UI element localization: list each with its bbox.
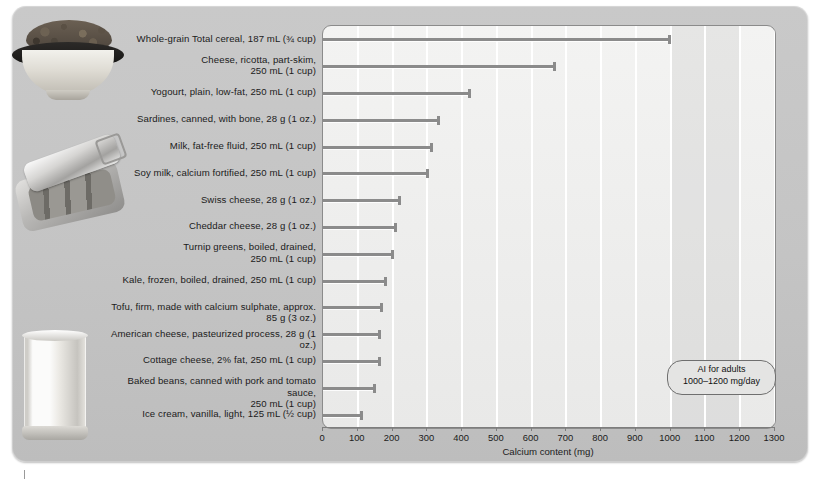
category-label: American cheese, pasteurized process, 28… <box>110 328 316 351</box>
x-axis-tick <box>426 427 427 431</box>
category-label-line: 250 mL (1 cup) <box>110 253 316 264</box>
category-label-line: Kale, frozen, boiled, drained, 250 mL (1… <box>110 274 316 285</box>
bar-row <box>323 214 775 241</box>
category-label-line: Swiss cheese, 28 g (1 oz.) <box>110 194 316 205</box>
category-label-line: Sardines, canned, with bone, 28 g (1 oz.… <box>110 113 316 124</box>
bar-row <box>323 53 775 80</box>
bar <box>323 306 383 309</box>
bar <box>323 226 397 229</box>
x-axis-tick <box>565 427 566 431</box>
category-label: Soy milk, calcium fortified, 250 mL (1 c… <box>110 167 316 178</box>
x-axis-tick <box>635 427 636 431</box>
milk-glass-body <box>24 334 86 434</box>
bar-row <box>323 240 775 267</box>
bar <box>323 253 394 256</box>
category-label: Milk, fat-free fluid, 250 mL (1 cup) <box>110 140 316 151</box>
x-axis-tick <box>739 427 740 431</box>
category-label: Baked beans, canned with pork and tomato… <box>110 375 316 409</box>
x-axis-title: Calcium content (mg) <box>322 446 774 457</box>
bar <box>323 92 471 95</box>
figure-corner-mark <box>24 470 25 479</box>
x-axis-tick <box>461 427 462 431</box>
bar-row <box>323 401 775 428</box>
bar <box>323 333 381 336</box>
ai-callout-line2: 1000–1200 mg/day <box>668 376 775 388</box>
category-label-line: Whole-grain Total cereal, 187 mL (¾ cup) <box>110 33 316 44</box>
milk-glass-rim <box>22 330 88 341</box>
category-label: Sardines, canned, with bone, 28 g (1 oz.… <box>110 113 316 124</box>
bar <box>323 199 401 202</box>
category-label: Tofu, firm, made with calcium sulphate, … <box>110 301 316 324</box>
ai-callout: AI for adults 1000–1200 mg/day <box>667 360 776 395</box>
bar-row <box>323 133 775 160</box>
bar <box>323 360 381 363</box>
category-label-line: Cheddar cheese, 28 g (1 oz.) <box>110 220 316 231</box>
x-axis-tick <box>496 427 497 431</box>
bar <box>323 146 433 149</box>
ai-callout-line1: AI for adults <box>668 364 775 376</box>
bowl-foot <box>46 90 90 100</box>
category-label-line: Milk, fat-free fluid, 250 mL (1 cup) <box>110 140 316 151</box>
bar <box>323 38 671 41</box>
category-label-line: 250 mL (1 cup) <box>110 65 316 76</box>
x-axis-tick <box>600 427 601 431</box>
x-axis-tick <box>531 427 532 431</box>
category-label: Cheddar cheese, 28 g (1 oz.) <box>110 220 316 231</box>
bar-row <box>323 80 775 107</box>
bar <box>323 119 440 122</box>
category-label: Cheese, ricotta, part-skim,250 mL (1 cup… <box>110 54 316 77</box>
bar-row <box>323 267 775 294</box>
category-label-line: Cheese, ricotta, part-skim, <box>110 54 316 65</box>
category-label-line: American cheese, pasteurized process, 28… <box>110 328 316 351</box>
x-axis-line <box>322 427 774 428</box>
x-axis-tick <box>670 427 671 431</box>
category-label-line: Tofu, firm, made with calcium sulphate, … <box>110 301 316 324</box>
x-axis-tick <box>322 427 323 431</box>
x-axis-tick <box>774 427 775 431</box>
category-label-line: Cottage cheese, 2% fat, 250 mL (1 cup) <box>110 354 316 365</box>
category-label: Yogourt, plain, low-fat, 250 mL (1 cup) <box>110 86 316 97</box>
category-label-line: Baked beans, canned with pork and tomato… <box>110 375 316 398</box>
milk-glass-photo <box>14 326 100 444</box>
bar-row <box>323 321 775 348</box>
category-label-line: Turnip greens, boiled, drained, <box>110 241 316 252</box>
x-axis-tick-label: 1300 <box>754 432 794 443</box>
x-axis-tick <box>357 427 358 431</box>
category-label: Kale, frozen, boiled, drained, 250 mL (1… <box>110 274 316 285</box>
category-label-line: Yogourt, plain, low-fat, 250 mL (1 cup) <box>110 86 316 97</box>
bar <box>323 414 363 417</box>
calcium-content-figure: Whole-grain Total cereal, 187 mL (¾ cup)… <box>0 0 821 480</box>
bar <box>323 65 556 68</box>
x-axis-tick <box>704 427 705 431</box>
category-label: Turnip greens, boiled, drained,250 mL (1… <box>110 241 316 264</box>
category-label-line: Soy milk, calcium fortified, 250 mL (1 c… <box>110 167 316 178</box>
category-label: Whole-grain Total cereal, 187 mL (¾ cup) <box>110 33 316 44</box>
category-label-line: Ice cream, vanilla, light, 125 mL (½ cup… <box>110 408 316 419</box>
bar-row <box>323 160 775 187</box>
bar <box>323 280 387 283</box>
bar <box>323 172 429 175</box>
bar-row <box>323 106 775 133</box>
category-labels: Whole-grain Total cereal, 187 mL (¾ cup)… <box>110 25 316 427</box>
milk-glass-base <box>22 426 88 440</box>
category-label: Ice cream, vanilla, light, 125 mL (½ cup… <box>110 408 316 419</box>
category-label: Swiss cheese, 28 g (1 oz.) <box>110 194 316 205</box>
bar <box>323 387 376 390</box>
bar-row <box>323 294 775 321</box>
x-axis-tick <box>392 427 393 431</box>
category-label: Cottage cheese, 2% fat, 250 mL (1 cup) <box>110 354 316 365</box>
bar-row <box>323 26 775 53</box>
bar-row <box>323 187 775 214</box>
